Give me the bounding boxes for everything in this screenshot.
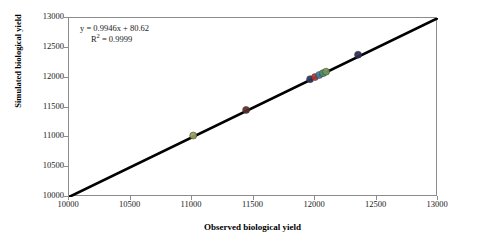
r-squared-text: R2 = 0.9999 xyxy=(80,34,149,45)
x-axis-tick-label: 10500 xyxy=(100,200,160,209)
x-axis-tick-label: 11500 xyxy=(223,200,283,209)
y-axis-tick-label: 13000 xyxy=(26,12,64,21)
r-squared-value: = 0.9999 xyxy=(100,34,132,44)
y-axis-tick-label: 11500 xyxy=(26,102,64,111)
x-axis-tick-label: 12500 xyxy=(346,200,406,209)
y-axis-tick-label: 11000 xyxy=(26,131,64,140)
data-point xyxy=(190,132,197,139)
y-axis-tick-label: 12000 xyxy=(26,72,64,81)
y-axis-tick-label: 10500 xyxy=(26,161,64,170)
regression-annotation: y = 0.9946x + 80.62 R2 = 0.9999 xyxy=(74,21,155,48)
x-axis-tick-labels: 10000105001100011500120001250013000 xyxy=(0,200,477,214)
x-axis-tick-label: 13000 xyxy=(407,200,467,209)
y-axis-tick-label: 12500 xyxy=(26,42,64,51)
regression-equation-text: y = 0.9946x + 80.62 xyxy=(80,23,149,34)
x-axis-tick-label: 11000 xyxy=(161,200,221,209)
x-axis-tick-label: 10000 xyxy=(38,200,98,209)
x-axis-title: Observed biological yield xyxy=(68,222,437,232)
chart-figure: Simulated biological yield 1000010500110… xyxy=(0,0,477,244)
x-axis-tick-label: 12000 xyxy=(284,200,344,209)
data-point xyxy=(323,68,330,75)
data-point xyxy=(243,106,250,113)
data-point xyxy=(355,51,362,58)
